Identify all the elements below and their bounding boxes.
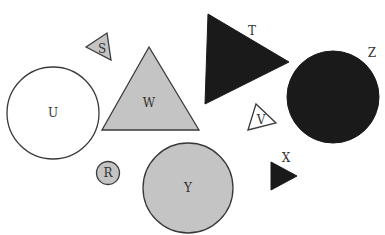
label-u: U xyxy=(48,106,58,120)
shapes-diagram: S T U W Z V R Y X xyxy=(0,0,385,235)
label-w: W xyxy=(143,96,156,110)
label-z: Z xyxy=(368,46,376,60)
label-y: Y xyxy=(183,181,193,195)
label-s: S xyxy=(98,42,106,56)
shape-y-circle: Y xyxy=(143,143,233,233)
label-t: T xyxy=(248,24,256,38)
label-x: X xyxy=(282,151,291,165)
circle-z xyxy=(287,51,379,143)
label-v: V xyxy=(256,113,266,127)
label-r: R xyxy=(103,166,113,180)
shape-r-circle: R xyxy=(97,162,120,185)
shape-u-circle: U xyxy=(7,67,99,159)
